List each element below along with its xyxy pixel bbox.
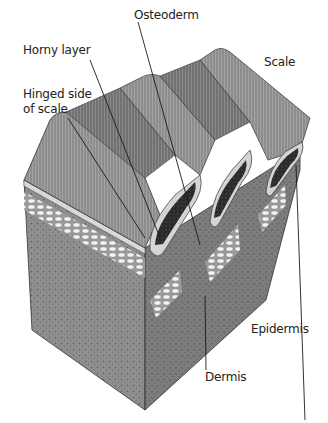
label-scale: Scale xyxy=(264,55,295,69)
label-osteoderm: Osteoderm xyxy=(134,8,199,22)
label-dermis: Dermis xyxy=(205,370,246,384)
label-epidermis: Epidermis xyxy=(251,322,309,336)
epidermis-leader xyxy=(296,165,305,420)
reptile-skin-diagram: Osteoderm Horny layer Hinged side of sca… xyxy=(0,0,328,423)
label-hinged-side-line1: Hinged side xyxy=(23,87,92,101)
label-hinged-side-line2: of scale xyxy=(23,102,68,116)
label-horny-layer: Horny layer xyxy=(23,43,91,57)
